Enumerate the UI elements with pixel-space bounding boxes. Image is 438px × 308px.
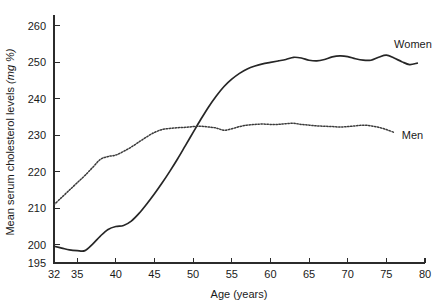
x-axis-tick-labels: 3235404550556065707580 <box>48 268 431 280</box>
x-tick-label: 35 <box>71 268 83 280</box>
x-tick-label: 50 <box>187 268 199 280</box>
cholesterol-line-chart: 3235404550556065707580 19520021022023024… <box>0 0 438 308</box>
y-tick-label: 200 <box>28 239 46 251</box>
y-tick-marks <box>54 26 60 245</box>
series-line-men <box>54 123 394 204</box>
y-axis-title-text: Mean serum cholesterol levels (mg %) <box>4 48 16 235</box>
y-tick-label: 260 <box>28 20 46 32</box>
y-tick-label: 250 <box>28 56 46 68</box>
x-tick-marks <box>77 258 425 263</box>
series-line-women <box>54 55 417 251</box>
x-tick-label: 60 <box>264 268 276 280</box>
x-tick-label: 55 <box>226 268 238 280</box>
x-tick-label: 65 <box>303 268 315 280</box>
y-tick-label: 195 <box>28 257 46 269</box>
series-label-men: Men <box>402 129 423 141</box>
y-axis-title-plain: Mean serum cholesterol levels <box>4 86 16 235</box>
x-axis-title: Age (years) <box>211 288 268 300</box>
y-axis-title-units: (mg %) <box>4 48 16 84</box>
x-tick-label: 40 <box>110 268 122 280</box>
x-tick-label: 75 <box>380 268 392 280</box>
y-tick-label: 230 <box>28 129 46 141</box>
y-axis-tick-labels: 195200210220230240250260 <box>28 20 46 269</box>
y-tick-label: 210 <box>28 202 46 214</box>
y-tick-label: 240 <box>28 93 46 105</box>
chart-axes <box>54 15 425 263</box>
y-axis-title: Mean serum cholesterol levels (mg %) <box>4 48 16 235</box>
x-tick-label: 80 <box>419 268 431 280</box>
series-inline-labels: Women Men <box>394 38 432 141</box>
x-tick-label: 45 <box>148 268 160 280</box>
axis-lines <box>54 15 425 263</box>
chart-series-group <box>54 55 417 251</box>
x-tick-label: 70 <box>342 268 354 280</box>
chart-canvas: 3235404550556065707580 19520021022023024… <box>0 0 438 308</box>
series-label-women: Women <box>394 38 432 50</box>
y-tick-label: 220 <box>28 166 46 178</box>
x-tick-label: 32 <box>48 268 60 280</box>
